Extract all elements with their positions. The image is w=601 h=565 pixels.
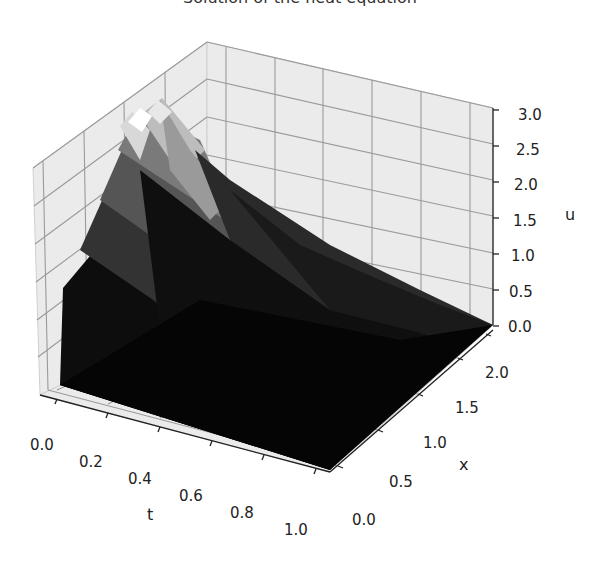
t-tick-5: 1.0 <box>284 521 308 539</box>
u-axis-label: u <box>565 205 575 224</box>
t-tick-4: 0.8 <box>230 504 254 522</box>
t-tick-0: 0.0 <box>30 436 54 454</box>
t-tick-3: 0.6 <box>179 487 203 505</box>
surface-plot: Solution of the heat equation <box>0 0 601 565</box>
u-tick-6: 3.0 <box>518 106 542 124</box>
t-axis-label: t <box>147 505 153 524</box>
u-tick-4: 2.0 <box>514 176 538 194</box>
t-tick-1: 0.2 <box>79 453 103 471</box>
u-tick-5: 2.5 <box>516 141 540 159</box>
x-tick-3: 1.5 <box>455 399 479 417</box>
x-tick-2: 1.0 <box>423 434 447 452</box>
u-tick-0: 0.0 <box>508 318 532 336</box>
u-tick-3: 1.5 <box>513 212 537 230</box>
u-tick-2: 1.0 <box>511 247 535 265</box>
x-tick-1: 0.5 <box>389 473 413 491</box>
t-tick-2: 0.4 <box>128 470 152 488</box>
x-axis-label: x <box>459 455 468 474</box>
chart-title: Solution of the heat equation <box>183 0 417 7</box>
u-tick-labels: 0.0 0.5 1.0 1.5 2.0 2.5 3.0 <box>508 106 542 336</box>
x-tick-0: 0.0 <box>352 511 376 529</box>
x-tick-4: 2.0 <box>485 364 509 382</box>
u-tick-1: 0.5 <box>509 283 533 301</box>
